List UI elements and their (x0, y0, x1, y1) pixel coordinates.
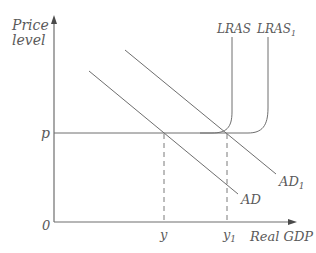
ad-lras-diagram: Price level Real GDP 0 p y y1 LRAS LRAS1… (0, 0, 316, 253)
y-axis-arrow-icon (51, 15, 57, 24)
x-axis-label: Real GDP (249, 229, 313, 244)
y-axis (51, 15, 57, 222)
lras1-label: LRAS1 (256, 22, 296, 38)
y-axis-label-line1: Price (11, 17, 49, 33)
lras-label: LRAS (216, 22, 251, 36)
x-axis-arrow-icon (288, 219, 297, 225)
origin-label: 0 (42, 218, 50, 233)
y-axis-label-line2: level (12, 32, 45, 48)
lras-curve (200, 37, 232, 133)
ad1-label: AD1 (278, 174, 305, 191)
ad-label: AD (240, 192, 261, 207)
price-tick-label: p (41, 125, 50, 141)
lras1-curve (200, 37, 268, 133)
x-axis (54, 219, 297, 225)
output1-tick-label: y1 (222, 227, 236, 244)
ad1-curve (125, 50, 276, 174)
output-tick-label: y (159, 227, 168, 242)
